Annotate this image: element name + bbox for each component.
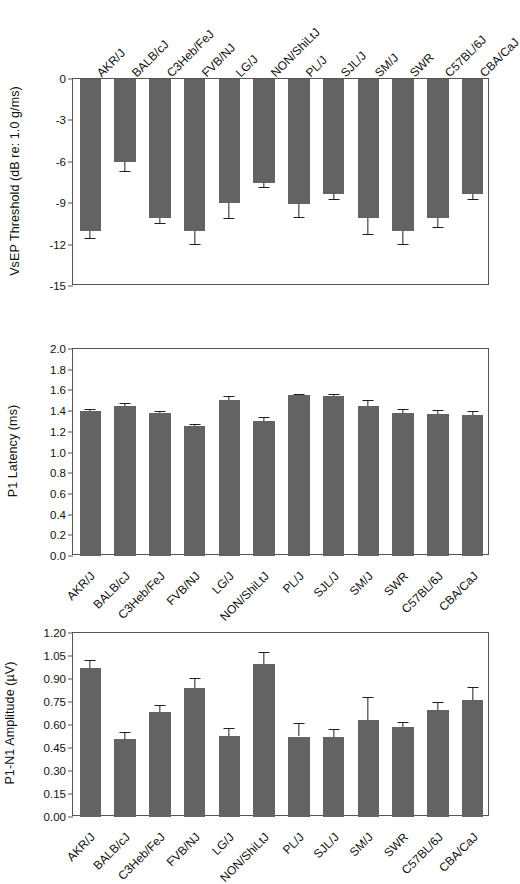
y-axis-title: P1 Latency (ms) bbox=[5, 347, 19, 554]
plot-area: 0.000.150.300.450.600.750.901.051.20 bbox=[72, 632, 489, 816]
error-bar-cap bbox=[120, 403, 131, 404]
error-bar bbox=[368, 400, 369, 407]
error-bar bbox=[229, 203, 230, 218]
error-bar-cap bbox=[467, 199, 478, 200]
bar-group bbox=[323, 349, 345, 554]
bar-group bbox=[114, 349, 136, 554]
bar bbox=[219, 736, 241, 817]
y-tick-label: 0.00 bbox=[44, 811, 73, 823]
error-bar-cap bbox=[328, 199, 339, 200]
x-tick-label: SWR bbox=[381, 830, 411, 860]
y-tick-label: -9 bbox=[56, 197, 73, 209]
y-tick-label: 2.0 bbox=[50, 343, 73, 355]
error-bar-cap bbox=[259, 652, 270, 653]
error-bar bbox=[90, 231, 91, 239]
bar-group bbox=[253, 79, 275, 284]
bar-group bbox=[323, 79, 345, 284]
error-bar-cap bbox=[363, 697, 374, 698]
y-tick-label: 0 bbox=[60, 73, 73, 85]
y-tick-label: 0.45 bbox=[44, 742, 73, 754]
bar bbox=[323, 79, 345, 194]
y-axis-title: VsEP Threshold (dB re: 1.0 g/ms) bbox=[7, 77, 21, 284]
bar-group bbox=[323, 633, 345, 815]
error-bar-cap bbox=[85, 238, 96, 239]
bar-group bbox=[184, 349, 206, 554]
error-bar-cap bbox=[398, 722, 409, 723]
y-tick-label: 0.90 bbox=[44, 673, 73, 685]
bar bbox=[253, 421, 275, 556]
bar bbox=[323, 396, 345, 556]
y-tick-label: -12 bbox=[49, 239, 73, 251]
x-tick-label: FVB/NJ bbox=[163, 830, 202, 869]
error-bar bbox=[472, 687, 473, 700]
error-bar-cap bbox=[189, 244, 200, 245]
error-bar bbox=[437, 218, 438, 226]
x-tick-label: SJL/J bbox=[310, 569, 341, 600]
bar-group bbox=[149, 349, 171, 554]
bar-group bbox=[80, 349, 102, 554]
error-bar-cap bbox=[120, 171, 131, 172]
x-tick-label: AKR/J bbox=[94, 46, 128, 80]
bar bbox=[392, 79, 414, 231]
bar bbox=[149, 79, 171, 218]
bar-group bbox=[80, 79, 102, 284]
bar-group bbox=[392, 633, 414, 815]
bar-group bbox=[462, 349, 484, 554]
bar bbox=[114, 406, 136, 556]
bar bbox=[149, 712, 171, 817]
y-tick-label: 1.0 bbox=[50, 447, 73, 459]
bar-group bbox=[149, 633, 171, 815]
error-bar bbox=[124, 162, 125, 170]
x-tick-label: LG/J bbox=[233, 52, 261, 80]
bar-group bbox=[358, 349, 380, 554]
bar-group bbox=[427, 349, 449, 554]
bar bbox=[219, 400, 241, 556]
bar-group bbox=[358, 633, 380, 815]
x-tick-label: LG/J bbox=[210, 830, 238, 858]
y-tick-label: 1.4 bbox=[50, 405, 73, 417]
bar bbox=[427, 414, 449, 556]
error-bar-cap bbox=[293, 394, 304, 395]
y-tick-label: 0.60 bbox=[44, 719, 73, 731]
bar bbox=[358, 79, 380, 218]
bar-group bbox=[114, 633, 136, 815]
y-tick-label: 1.05 bbox=[44, 650, 73, 662]
y-tick-label: 1.8 bbox=[50, 364, 73, 376]
y-tick-label: 0.8 bbox=[50, 467, 73, 479]
error-bar-cap bbox=[224, 728, 235, 729]
bar-group bbox=[427, 79, 449, 284]
y-tick-label: -15 bbox=[49, 280, 73, 292]
bar bbox=[323, 737, 345, 817]
y-tick-label: -3 bbox=[56, 114, 73, 126]
error-bar-cap bbox=[224, 396, 235, 397]
y-tick-label: -6 bbox=[56, 156, 73, 168]
bar bbox=[427, 710, 449, 817]
x-tick-label: FVB/NJ bbox=[163, 569, 202, 608]
bar-group bbox=[219, 633, 241, 815]
bar bbox=[392, 413, 414, 556]
bar-group bbox=[219, 349, 241, 554]
bar-group bbox=[219, 79, 241, 284]
x-tick-label: SM/J bbox=[347, 830, 376, 859]
error-bar bbox=[90, 660, 91, 668]
bar bbox=[462, 700, 484, 817]
error-bar-cap bbox=[432, 227, 443, 228]
bar bbox=[219, 79, 241, 203]
y-tick-label: 0.2 bbox=[50, 529, 73, 541]
bar bbox=[288, 737, 310, 818]
bar bbox=[114, 79, 136, 162]
bar-group bbox=[114, 79, 136, 284]
bar bbox=[253, 664, 275, 817]
bar bbox=[392, 727, 414, 817]
bar-group bbox=[392, 349, 414, 554]
bar-group bbox=[427, 633, 449, 815]
bar bbox=[358, 406, 380, 556]
plot-area: 0-3-6-9-12-15 bbox=[72, 78, 489, 285]
error-bar bbox=[437, 702, 438, 710]
error-bar-cap bbox=[154, 705, 165, 706]
error-bar bbox=[263, 652, 264, 664]
bar bbox=[80, 411, 102, 556]
error-bar-cap bbox=[363, 234, 374, 235]
bar-group bbox=[462, 79, 484, 284]
error-bar-cap bbox=[467, 411, 478, 412]
